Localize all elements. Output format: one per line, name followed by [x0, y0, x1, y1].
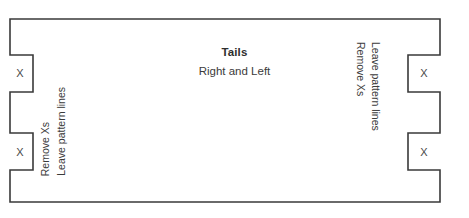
right-notch-lower-x-mark: X	[420, 147, 427, 158]
center-caption-group: Tails Right and Left	[125, 46, 345, 77]
right-annotation-group: Remove Xs Leave pattern lines	[355, 42, 386, 168]
left-leave-pattern-lines-label: Leave pattern lines	[56, 87, 67, 176]
diagram-subtitle: Right and Left	[125, 65, 345, 77]
right-notch-upper-x-mark: X	[420, 68, 427, 79]
right-leave-pattern-lines-label: Leave pattern lines	[371, 42, 382, 131]
left-annotation-group: Remove Xs Leave pattern lines	[40, 50, 71, 176]
right-remove-xs-label: Remove Xs	[355, 42, 366, 96]
diagram-title: Tails	[125, 46, 345, 58]
left-notch-upper-x-mark: X	[16, 68, 23, 79]
left-notch-lower-x-mark: X	[16, 147, 23, 158]
left-remove-xs-label: Remove Xs	[40, 122, 51, 176]
